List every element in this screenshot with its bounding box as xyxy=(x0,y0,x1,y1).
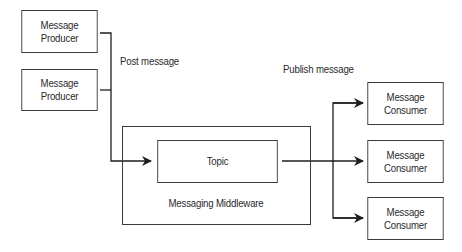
producer-1-line1: Message xyxy=(41,19,79,32)
message-consumer-1: Message Consumer xyxy=(367,82,443,125)
message-producer-1: Message Producer xyxy=(21,10,97,53)
topic-label: Topic xyxy=(207,155,229,168)
consumer-3-line1: Message xyxy=(387,206,425,219)
publish-message-label: Publish message xyxy=(283,63,354,75)
consumer-3-line2: Consumer xyxy=(384,219,427,232)
topic-box: Topic xyxy=(157,140,278,183)
consumer-2-line1: Message xyxy=(387,149,425,162)
consumer-1-line1: Message xyxy=(387,91,425,104)
message-producer-2: Message Producer xyxy=(21,69,97,111)
consumer-2-line2: Consumer xyxy=(384,162,427,175)
producer-2-line2: Producer xyxy=(41,90,79,103)
message-consumer-3: Message Consumer xyxy=(367,197,443,240)
consumer-1-line2: Consumer xyxy=(384,104,427,117)
producer-1-line2: Producer xyxy=(41,32,79,45)
post-message-label: Post message xyxy=(120,55,179,67)
messaging-middleware-label: Messaging Middleware xyxy=(130,197,303,209)
message-consumer-2: Message Consumer xyxy=(367,140,443,183)
producer-2-line1: Message xyxy=(41,77,79,90)
